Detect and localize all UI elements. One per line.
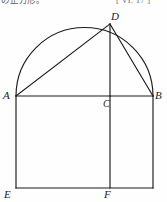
vertex-label-a: A <box>3 90 10 101</box>
diagram-strokes <box>16 24 153 188</box>
vertex-label-d: D <box>111 11 119 22</box>
vertex-label-b: B <box>155 90 162 101</box>
geometry-diagram: A B C D E F <box>0 0 167 202</box>
segment-db <box>110 24 153 96</box>
figure-page: の正方形。 [ VI. 17 ] A B C D E F <box>0 0 167 202</box>
vertex-label-f: F <box>104 189 111 200</box>
vertex-label-c: C <box>103 98 110 109</box>
diagram-canvas <box>0 0 167 202</box>
vertex-label-e: E <box>4 189 11 200</box>
segment-ad <box>16 24 110 96</box>
